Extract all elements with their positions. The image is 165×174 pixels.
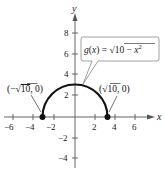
right-point-label: (√10, 0) xyxy=(99,84,130,96)
left-endpoint-dot xyxy=(40,114,46,120)
y-tick-label: −2 xyxy=(58,133,68,143)
y-tick-label: −4 xyxy=(58,153,68,163)
y-tick-label: 2 xyxy=(64,90,69,100)
right-point-leader xyxy=(109,96,117,112)
svg-text:(√10, 0): (√10, 0) xyxy=(99,84,130,95)
x-axis-label: x xyxy=(156,111,162,122)
y-tick-label: 4 xyxy=(64,69,69,79)
y-axis-label: y xyxy=(71,3,77,14)
chart-canvas: x y −6 −4 −2 2 4 6 8 6 4 2 −2 −4 (−√10, … xyxy=(0,0,165,174)
left-point-label: (−√10, 0) xyxy=(7,84,43,96)
x-tick-label: 4 xyxy=(112,122,117,132)
x-tick-label: 2 xyxy=(92,122,97,132)
y-tick-label: 8 xyxy=(64,28,69,38)
callout-formula: g(x) = √10 − x2 xyxy=(84,43,142,56)
svg-text:(−√10, 0): (−√10, 0) xyxy=(7,84,43,95)
x-tick-label: −2 xyxy=(46,122,56,132)
function-callout: g(x) = √10 − x2 xyxy=(81,37,159,84)
right-endpoint-dot xyxy=(105,114,111,120)
x-tick-label: 6 xyxy=(132,122,137,132)
y-axis-arrow-icon xyxy=(73,13,78,21)
left-point-leader xyxy=(31,95,41,112)
x-axis-arrow-icon xyxy=(147,115,155,120)
y-tick-label: 6 xyxy=(64,49,69,59)
x-tick-label: −4 xyxy=(25,122,35,132)
x-tick-label: −6 xyxy=(4,122,14,132)
